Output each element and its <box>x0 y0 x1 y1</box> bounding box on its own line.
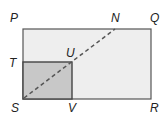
label-u: U <box>66 46 75 60</box>
label-v: V <box>68 101 77 115</box>
label-t: T <box>9 56 18 70</box>
label-q: Q <box>150 11 159 25</box>
label-r: R <box>150 101 159 115</box>
label-s: S <box>11 101 19 115</box>
label-n: N <box>111 11 120 25</box>
label-p: P <box>10 11 18 25</box>
geometry-diagram: P N Q T U S V R <box>0 0 168 115</box>
